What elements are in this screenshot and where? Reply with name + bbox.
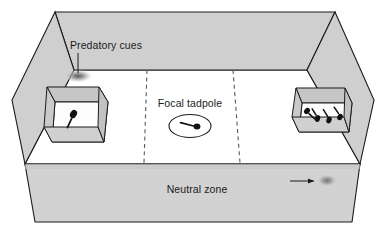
front-wall-lip [25,164,360,169]
predatory-cues-label: Predatory cues [70,39,142,51]
figure-canvas: Predatory cues Focal tadpole Neutral zon… [0,0,387,235]
focal-tadpole-label: Focal tadpole [158,97,222,109]
container-left-side-front [44,127,104,142]
container-right-rim [296,88,352,103]
apparatus-diagram: Predatory cues Focal tadpole Neutral zon… [0,0,387,235]
neutral-zone-label: Neutral zone [167,183,228,195]
stimulus-container-left [44,87,108,142]
cue-plume-right [317,174,338,187]
stimulus-container-right [292,88,352,132]
